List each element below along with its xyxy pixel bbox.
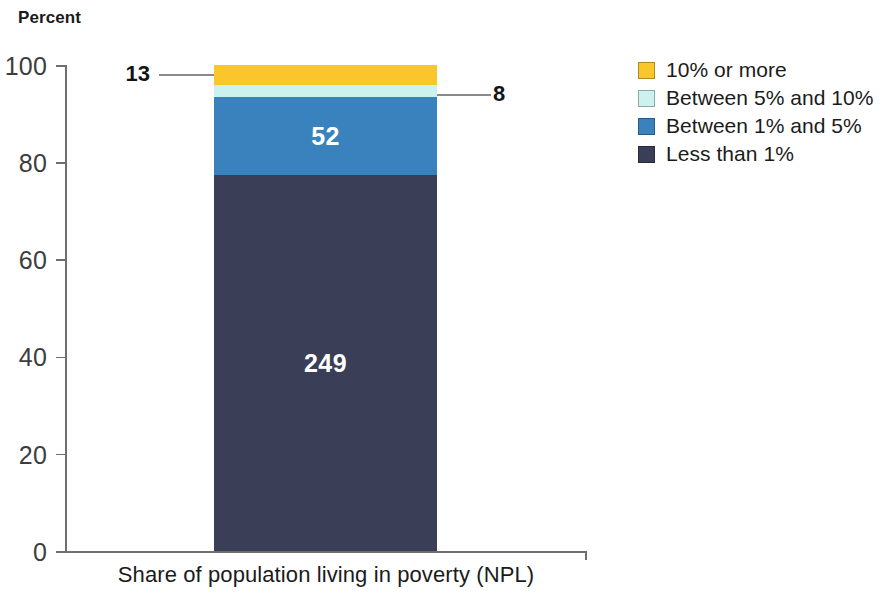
y-tick-label-100: 100 [5, 51, 47, 80]
legend-item-between-1-and-5[interactable]: Between 1% and 5% [638, 112, 874, 140]
legend-item-less-than-1[interactable]: Less than 1% [638, 140, 874, 168]
y-axis-title: Percent [18, 8, 81, 28]
callout-label-13: 13 [126, 61, 160, 87]
y-tick-80: 80 [56, 162, 65, 164]
bar-segment-between-1-and-5[interactable]: 52 [214, 97, 437, 175]
bar-segment-value-52: 52 [214, 121, 437, 150]
legend-item-between-5-and-10[interactable]: Between 5% and 10% [638, 84, 874, 112]
legend-swatch-icon-blue [638, 118, 655, 135]
stacked-bar[interactable]: 52 249 [214, 65, 437, 551]
legend-swatch-icon-gold [638, 62, 655, 79]
y-tick-60: 60 [56, 259, 65, 261]
y-tick-40: 40 [56, 357, 65, 359]
legend: 10% or more Between 5% and 10% Between 1… [638, 56, 874, 168]
plot-area: 100 80 60 40 20 0 52 249 13 [65, 65, 587, 551]
legend-label-between-1-and-5: Between 1% and 5% [666, 114, 862, 138]
y-tick-label-20: 20 [19, 440, 47, 469]
y-tick-100: 100 [56, 65, 65, 67]
legend-label-10-percent-or-more: 10% or more [666, 58, 787, 82]
callout-label-8: 8 [493, 81, 505, 107]
y-tick-20: 20 [56, 454, 65, 456]
x-axis-end-cap [585, 551, 587, 560]
legend-label-between-5-and-10: Between 5% and 10% [666, 86, 874, 110]
y-tick-label-80: 80 [19, 148, 47, 177]
bar-segment-less-than-1[interactable]: 249 [214, 175, 437, 551]
x-axis-line [65, 551, 587, 553]
y-tick-label-60: 60 [19, 246, 47, 275]
x-axis-caption: Share of population living in poverty (N… [65, 562, 587, 588]
y-tick-0: 0 [56, 551, 65, 553]
legend-item-10-percent-or-more[interactable]: 10% or more [638, 56, 874, 84]
bar-segment-between-5-and-10[interactable] [214, 85, 437, 97]
bar-segment-10-percent-or-more[interactable] [214, 65, 437, 85]
legend-swatch-icon-cyan [638, 90, 655, 107]
chart-container: Percent 100 80 60 40 20 0 52 [0, 0, 890, 596]
legend-swatch-icon-navy [638, 146, 655, 163]
legend-label-less-than-1: Less than 1% [666, 142, 794, 166]
y-tick-label-0: 0 [33, 537, 47, 566]
y-axis-line [65, 65, 67, 551]
y-tick-label-40: 40 [19, 343, 47, 372]
callout-leader-line-8 [437, 94, 491, 96]
callout-leader-line-13 [159, 74, 214, 76]
bar-segment-value-249: 249 [214, 349, 437, 378]
